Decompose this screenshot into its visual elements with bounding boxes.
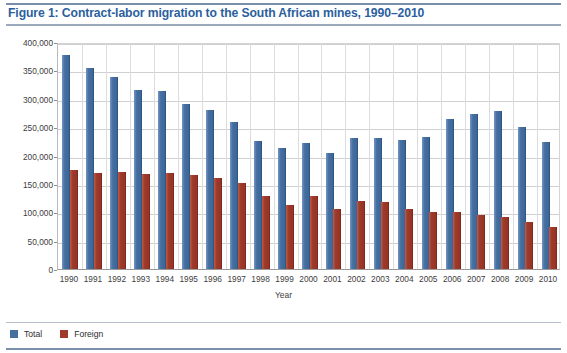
y-axis-tick-label: 0 bbox=[1, 265, 53, 275]
x-axis-tick-label: 1998 bbox=[251, 274, 269, 284]
bar-foreign-1995 bbox=[190, 175, 198, 269]
legend-swatch-foreign bbox=[60, 330, 68, 338]
bar-foreign-2010 bbox=[549, 227, 557, 269]
x-axis-tick-label: 2001 bbox=[323, 274, 341, 284]
bar-foreign-1992 bbox=[118, 172, 126, 269]
gridline-vertical bbox=[106, 44, 107, 269]
y-axis-tick-mark bbox=[54, 100, 57, 101]
bar-foreign-2001 bbox=[333, 209, 341, 269]
gridline-vertical bbox=[202, 44, 203, 269]
gridline-vertical bbox=[441, 44, 442, 269]
x-axis-tick-label: 2008 bbox=[491, 274, 509, 284]
x-axis-tick-label: 2010 bbox=[539, 274, 557, 284]
x-axis-tick-label: 2005 bbox=[419, 274, 437, 284]
y-axis-tick-mark bbox=[54, 43, 57, 44]
bar-foreign-1990 bbox=[70, 170, 78, 269]
x-axis-tick-label: 1994 bbox=[156, 274, 174, 284]
x-axis-tick-label: 2004 bbox=[395, 274, 413, 284]
y-axis-tick-mark bbox=[54, 213, 57, 214]
x-axis-tick-label: 1991 bbox=[84, 274, 102, 284]
figure-container: Figure 1: Contract-labor migration to th… bbox=[0, 0, 567, 353]
bar-foreign-1997 bbox=[238, 183, 246, 269]
gridline-vertical bbox=[130, 44, 131, 269]
gridline-vertical bbox=[417, 44, 418, 269]
x-axis-tick-label: 2006 bbox=[443, 274, 461, 284]
gridline-horizontal bbox=[58, 72, 559, 73]
gridline-vertical bbox=[513, 44, 514, 269]
gridline-vertical bbox=[274, 44, 275, 269]
legend-item-total: Total bbox=[10, 329, 42, 339]
bar-foreign-1996 bbox=[214, 178, 222, 269]
x-axis-title: Year bbox=[0, 290, 567, 300]
x-axis-tick-label: 1997 bbox=[227, 274, 245, 284]
bar-foreign-1998 bbox=[262, 196, 270, 269]
y-axis-tick-label: 300,000 bbox=[1, 95, 53, 105]
legend-item-foreign: Foreign bbox=[60, 329, 103, 339]
bar-foreign-2005 bbox=[429, 212, 437, 269]
y-axis-tick-label: 350,000 bbox=[1, 66, 53, 76]
bar-foreign-1999 bbox=[286, 205, 294, 269]
x-axis-tick-label: 2009 bbox=[515, 274, 533, 284]
gridline-vertical bbox=[369, 44, 370, 269]
x-axis-tick-label: 1999 bbox=[275, 274, 293, 284]
y-axis-tick-mark bbox=[54, 242, 57, 243]
y-axis-tick-mark bbox=[54, 128, 57, 129]
bar-foreign-2008 bbox=[501, 217, 509, 269]
gridline-vertical bbox=[154, 44, 155, 269]
header-rule-bottom bbox=[6, 24, 561, 26]
gridline-vertical bbox=[345, 44, 346, 269]
bar-foreign-1994 bbox=[166, 173, 174, 269]
gridline-vertical bbox=[178, 44, 179, 269]
y-axis-tick-mark bbox=[54, 270, 57, 271]
x-axis-tick-label: 1996 bbox=[203, 274, 221, 284]
legend-swatch-total bbox=[10, 330, 18, 338]
x-axis-tick-label: 1995 bbox=[180, 274, 198, 284]
bar-foreign-2000 bbox=[310, 196, 318, 269]
legend-label: Total bbox=[24, 329, 42, 339]
gridline-horizontal bbox=[58, 44, 559, 45]
gridline-vertical bbox=[393, 44, 394, 269]
gridline-vertical bbox=[465, 44, 466, 269]
x-axis-tick-label: 1992 bbox=[108, 274, 126, 284]
y-axis-tick-label: 100,000 bbox=[1, 208, 53, 218]
y-axis-tick-label: 400,000 bbox=[1, 38, 53, 48]
y-axis-tick-label: 150,000 bbox=[1, 180, 53, 190]
gridline-vertical bbox=[82, 44, 83, 269]
bar-foreign-2007 bbox=[477, 215, 485, 269]
gridline-horizontal bbox=[58, 129, 559, 130]
gridline-vertical bbox=[250, 44, 251, 269]
x-axis-tick-label: 2000 bbox=[299, 274, 317, 284]
y-axis-tick-label: 250,000 bbox=[1, 123, 53, 133]
gridline-vertical bbox=[489, 44, 490, 269]
bar-foreign-2003 bbox=[381, 202, 389, 269]
gridline-vertical bbox=[321, 44, 322, 269]
y-axis-tick-label: 50,000 bbox=[1, 237, 53, 247]
y-axis-tick-mark bbox=[54, 157, 57, 158]
x-axis-tick-label: 1990 bbox=[60, 274, 78, 284]
x-axis-tick-label: 2007 bbox=[467, 274, 485, 284]
bar-foreign-1993 bbox=[142, 174, 150, 269]
legend-label: Foreign bbox=[74, 329, 103, 339]
chart-legend: TotalForeign bbox=[10, 329, 103, 339]
gridline-vertical bbox=[537, 44, 538, 269]
legend-rule-top bbox=[6, 322, 561, 323]
y-axis-tick-mark bbox=[54, 71, 57, 72]
bar-foreign-2002 bbox=[357, 201, 365, 269]
x-axis-tick-label: 2003 bbox=[371, 274, 389, 284]
gridline-horizontal bbox=[58, 101, 559, 102]
bar-foreign-2009 bbox=[525, 222, 533, 269]
footer-rule bbox=[6, 348, 561, 350]
bar-foreign-2004 bbox=[405, 209, 413, 269]
x-axis-tick-label: 1993 bbox=[132, 274, 150, 284]
bar-foreign-2006 bbox=[453, 212, 461, 269]
gridline-vertical bbox=[226, 44, 227, 269]
x-axis-tick-label: 2002 bbox=[347, 274, 365, 284]
gridline-vertical bbox=[298, 44, 299, 269]
plot-area bbox=[57, 43, 560, 270]
y-axis-tick-mark bbox=[54, 185, 57, 186]
y-axis-tick-label: 200,000 bbox=[1, 152, 53, 162]
figure-title: Figure 1: Contract-labor migration to th… bbox=[8, 4, 560, 23]
bar-foreign-1991 bbox=[94, 173, 102, 269]
